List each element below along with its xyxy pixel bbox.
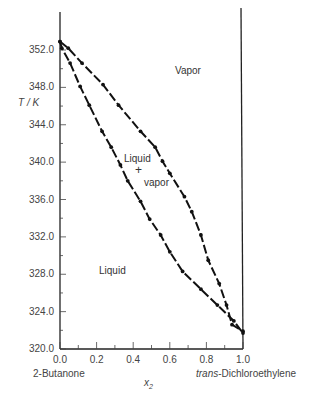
data-point: [126, 179, 130, 183]
data-point: [58, 40, 62, 44]
y-tick-label: 324.0: [14, 306, 54, 317]
right-boundary-line: [241, 8, 243, 349]
data-point: [199, 287, 203, 291]
data-point: [183, 195, 187, 199]
two-phase-label-plus: +: [135, 163, 142, 177]
data-point: [100, 129, 104, 133]
data-point: [159, 233, 163, 237]
data-point: [68, 61, 72, 65]
data-point: [80, 61, 84, 65]
y-tick-label: 348.0: [14, 81, 54, 92]
data-point: [109, 145, 113, 149]
right-component-label: trans-Dichloroethylene: [196, 368, 296, 379]
data-point: [181, 270, 185, 274]
data-point: [101, 83, 105, 87]
data-point: [232, 319, 236, 323]
data-point: [118, 163, 122, 167]
x-axis-label-sub: 2: [149, 383, 153, 390]
x-tick-label: 0.0: [45, 354, 75, 365]
data-point: [217, 282, 221, 286]
data-point: [206, 258, 210, 262]
x-tick-label: 1.0: [228, 354, 258, 365]
data-point: [241, 329, 245, 333]
y-tick-label: 328.0: [14, 268, 54, 279]
x-tick-label: 0.8: [191, 354, 221, 365]
y-tick-label: 336.0: [14, 194, 54, 205]
data-point: [148, 217, 152, 221]
liquid-region-label: Liquid: [99, 265, 126, 276]
data-point: [199, 233, 203, 237]
y-tick-label: 352.0: [14, 44, 54, 55]
left-component-label: 2-Butanone: [33, 368, 85, 379]
y-axis-label: T / K: [18, 97, 39, 108]
data-point: [66, 46, 70, 50]
data-point: [190, 210, 194, 214]
data-point: [139, 199, 143, 203]
data-point: [153, 145, 157, 149]
x-tick-label: 0.4: [118, 354, 148, 365]
data-point: [117, 103, 121, 107]
y-tick-label: 320.0: [14, 343, 54, 354]
data-point: [78, 85, 82, 89]
data-point: [225, 303, 229, 307]
vapor-region-label: Vapor: [175, 65, 201, 76]
data-point: [161, 159, 165, 163]
y-tick-label: 344.0: [14, 119, 54, 130]
data-point: [215, 303, 219, 307]
data-point: [168, 250, 172, 254]
right-component-rest: -Dichloroethylene: [218, 368, 296, 379]
data-point: [60, 46, 64, 50]
x-tick-label: 0.2: [82, 354, 112, 365]
data-point: [230, 323, 234, 327]
data-point: [168, 171, 172, 175]
y-tick-label: 332.0: [14, 231, 54, 242]
data-point: [87, 103, 91, 107]
data-point: [139, 129, 143, 133]
two-phase-label-vapor: vapor: [144, 177, 169, 188]
x-axis-label: x2: [144, 377, 153, 390]
x-tick-label: 0.6: [155, 354, 185, 365]
right-component-italic: trans: [196, 368, 218, 379]
y-tick-label: 340.0: [14, 156, 54, 167]
